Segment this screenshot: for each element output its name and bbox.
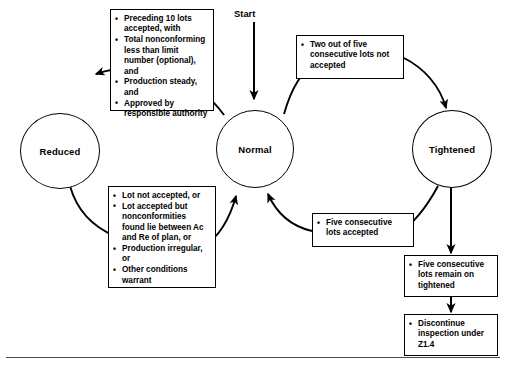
note-item: Lot accepted but nonconformities found l… <box>113 202 210 244</box>
state-tightened-label: Tightened <box>429 144 475 155</box>
state-normal-label: Normal <box>238 144 271 155</box>
note-discontinue-inspection: Discontinue inspection under Z1.4 <box>404 314 498 356</box>
note-item: Preceding 10 lots accepted, with <box>115 14 208 35</box>
note-item: Total nonconforming less than limit numb… <box>115 35 208 77</box>
note-item: Five consecutive lots remain on tightene… <box>409 260 492 291</box>
note-item: Production irregular, or <box>113 244 210 265</box>
note-tightened-to-normal: Five consecutive lots accepted <box>312 213 414 247</box>
note-item: Lot not accepted, or <box>113 191 210 201</box>
note-item: Production steady, and <box>115 77 208 98</box>
note-reduced-to-normal: Lot not accepted, or Lot accepted but no… <box>108 186 216 288</box>
state-reduced[interactable]: Reduced <box>20 113 100 189</box>
note-item: Approved by responsible authority <box>115 99 208 120</box>
state-tightened[interactable]: Tightened <box>412 110 492 188</box>
note-normal-to-tightened: Two out of five consecutive lots not acc… <box>296 35 404 79</box>
note-normal-to-reduced: Preceding 10 lots accepted, with Total n… <box>110 9 214 111</box>
state-diagram: Start Reduced Normal Tightened Preceding… <box>0 0 506 370</box>
start-label: Start <box>234 8 255 19</box>
state-reduced-label: Reduced <box>40 146 81 157</box>
note-item: Five consecutive lots accepted <box>317 218 408 239</box>
note-item: Two out of five consecutive lots not acc… <box>301 40 398 71</box>
state-normal[interactable]: Normal <box>216 110 294 188</box>
bottom-divider <box>6 357 500 358</box>
note-remain-on-tightened: Five consecutive lots remain on tightene… <box>404 255 498 297</box>
note-item: Other conditions warrant <box>113 265 210 286</box>
note-item: Discontinue inspection under Z1.4 <box>409 319 492 350</box>
